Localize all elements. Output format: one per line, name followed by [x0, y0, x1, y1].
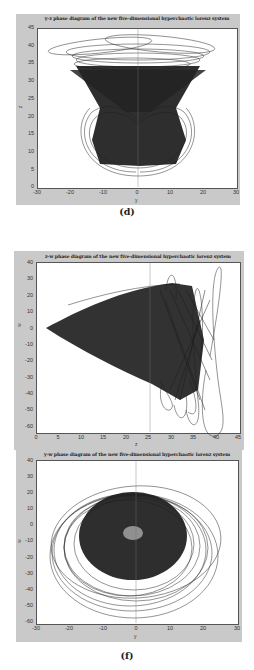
figure-f-xtick: 30 [229, 625, 245, 631]
figure-f-caption: (f) [0, 650, 254, 661]
figure-f-ytick: -30 [17, 570, 33, 576]
figure-f-xtick: -30 [28, 625, 44, 631]
figure-f-xtick: 10 [162, 625, 178, 631]
figure-f-ytick: -20 [17, 554, 33, 560]
figure-f-ytick: 30 [17, 473, 33, 479]
figure-f-ytick: 10 [17, 505, 33, 511]
figure-f-xtick: 20 [195, 625, 211, 631]
figure-f-xtick: 0 [128, 625, 144, 631]
figure-f-ytick: -60 [17, 618, 33, 624]
figure-f-ytick: 40 [17, 457, 33, 463]
figure-f-xlabel: y [134, 633, 137, 639]
figure-f-xtick: -10 [95, 625, 111, 631]
figure-f-ytick: 20 [17, 489, 33, 495]
figure-f-attractor [0, 0, 254, 670]
figure-f-ytick: -40 [17, 586, 33, 592]
figure-f-ylabel: w [16, 539, 22, 543]
figure-f-ytick: -50 [17, 602, 33, 608]
figure-f-xtick: -20 [61, 625, 77, 631]
figure-f-ytick: 0 [17, 521, 33, 527]
